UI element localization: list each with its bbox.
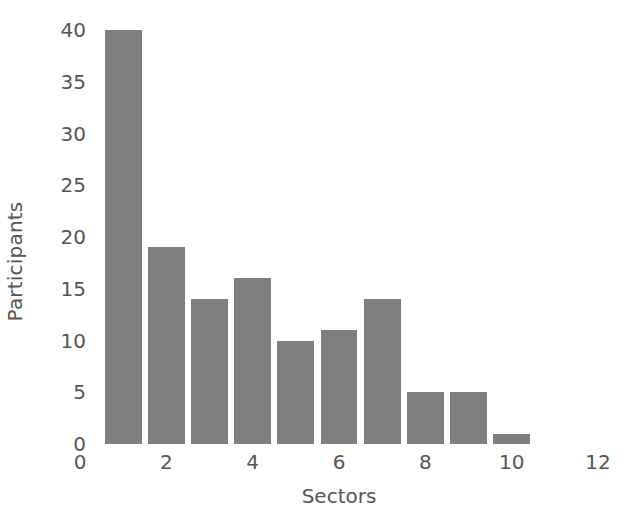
bar: [493, 434, 530, 444]
bar: [407, 392, 444, 444]
bar: [450, 392, 487, 444]
bar: [148, 247, 185, 444]
bar: [234, 278, 271, 444]
bar: [321, 330, 358, 444]
plot-area: [0, 0, 638, 523]
bar: [277, 341, 314, 445]
bar-chart: Participants 0510152025303540 024681012 …: [0, 0, 638, 523]
bar: [364, 299, 401, 444]
bar: [105, 30, 142, 444]
bar: [191, 299, 228, 444]
